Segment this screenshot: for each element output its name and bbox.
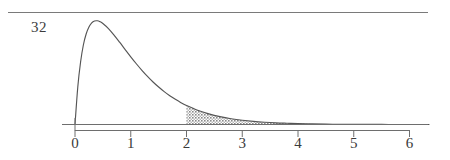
density-plot-figure: 32 0123456 — [0, 0, 450, 160]
x-axis-tick-label-5: 5 — [342, 135, 366, 151]
x-axis-tick-label-4: 4 — [286, 135, 310, 151]
density-curve — [75, 21, 429, 125]
x-axis-tick-label-2: 2 — [175, 135, 199, 151]
shaded-tail-region — [187, 105, 430, 124]
x-axis-tick-label-3: 3 — [230, 135, 254, 151]
x-axis-tick-label-1: 1 — [119, 135, 143, 151]
x-axis-tick-label-6: 6 — [398, 135, 422, 151]
x-axis-tick-label-0: 0 — [63, 135, 87, 151]
